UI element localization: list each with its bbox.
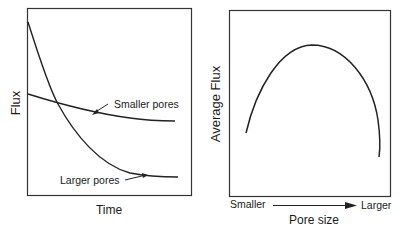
larger-pores-arrow-icon bbox=[142, 173, 148, 178]
figure: Smaller pores Larger pores Time Flux Sma… bbox=[0, 0, 402, 230]
x-range-start-label: Smaller bbox=[230, 198, 266, 210]
smaller-pores-label: Smaller pores bbox=[114, 98, 179, 110]
right-plot-frame bbox=[230, 11, 391, 197]
flux-vs-time-chart: Smaller pores Larger pores Time Flux bbox=[8, 9, 192, 218]
y-axis-label-flux: Flux bbox=[8, 90, 23, 115]
average-flux-curve bbox=[246, 45, 380, 157]
x-range-end-label: Larger bbox=[361, 199, 392, 211]
average-flux-vs-pore-size-chart: Smaller Larger Pore size Average Flux bbox=[208, 11, 392, 228]
larger-pores-label: Larger pores bbox=[60, 174, 120, 186]
x-axis-label-time: Time bbox=[96, 203, 123, 217]
y-axis-label-average-flux: Average Flux bbox=[208, 65, 223, 142]
x-axis-label-pore-size: Pore size bbox=[289, 213, 339, 227]
pore-size-arrow-icon bbox=[345, 202, 357, 209]
